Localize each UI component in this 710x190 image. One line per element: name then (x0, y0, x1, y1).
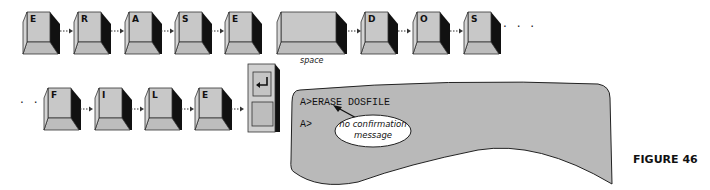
key-e-3: E (194, 86, 232, 130)
command-line: A>ERASE DOSFILE (300, 97, 390, 108)
key-space (276, 10, 348, 54)
keycap-shape (43, 86, 83, 132)
key-label: O (420, 14, 428, 24)
callout-line-1: no confirmation (335, 119, 411, 130)
key-a: A (124, 10, 162, 54)
keycap-shape (73, 10, 113, 56)
key-e: E (22, 10, 60, 54)
key-label: E (232, 14, 238, 24)
prompt-line: A> (300, 119, 312, 130)
key-i: I (94, 86, 132, 130)
dotted-arrow-icon (450, 27, 464, 35)
key-enter (245, 62, 281, 134)
dotted-arrow-icon (398, 27, 412, 35)
key-label: S (471, 14, 477, 24)
key-label: D (368, 14, 375, 24)
callout-line-2: message (335, 130, 411, 141)
dotted-arrow-icon (181, 105, 195, 113)
enter-keycap-shape (245, 62, 283, 136)
key-label: E (30, 14, 36, 24)
key-label: L (152, 90, 158, 100)
keycap-shape (144, 86, 184, 132)
terminal-screen: A>ERASE DOSFILE A> no confirmation messa… (288, 80, 622, 190)
keycap-shape (224, 10, 264, 56)
keycap-shape (94, 86, 134, 132)
key-label: F (51, 90, 57, 100)
key-o: O (412, 10, 450, 54)
keycap-shape (276, 10, 350, 56)
dotted-arrow-icon (211, 27, 225, 35)
dotted-arrow-icon (60, 27, 74, 35)
key-s-2: S (463, 10, 501, 54)
continuation-dots: · · · (503, 20, 537, 34)
keycap-shape (360, 10, 400, 56)
keycap-shape (174, 10, 214, 56)
key-label: A (132, 14, 139, 24)
keycap-shape (463, 10, 503, 56)
key-s: S (174, 10, 212, 54)
key-d: D (360, 10, 398, 54)
key-f: F (43, 86, 81, 130)
key-label: R (81, 14, 88, 24)
key-label: E (202, 90, 208, 100)
key-label: S (182, 14, 188, 24)
keycap-shape (194, 86, 234, 132)
space-caption: space (300, 56, 323, 65)
key-label: I (102, 90, 105, 100)
dotted-arrow-icon (131, 105, 145, 113)
dotted-arrow-icon (231, 105, 245, 113)
key-e-2: E (224, 10, 262, 54)
dotted-arrow-icon (161, 27, 175, 35)
dotted-arrow-icon (111, 27, 125, 35)
dotted-arrow-icon (80, 105, 94, 113)
keycap-shape (124, 10, 164, 56)
figure-label: FIGURE 46 (633, 153, 698, 166)
key-r: R (73, 10, 111, 54)
keycap-shape (412, 10, 452, 56)
callout-bubble: no confirmation message (335, 119, 411, 141)
keycap-shape (22, 10, 62, 56)
key-l: L (144, 86, 182, 130)
